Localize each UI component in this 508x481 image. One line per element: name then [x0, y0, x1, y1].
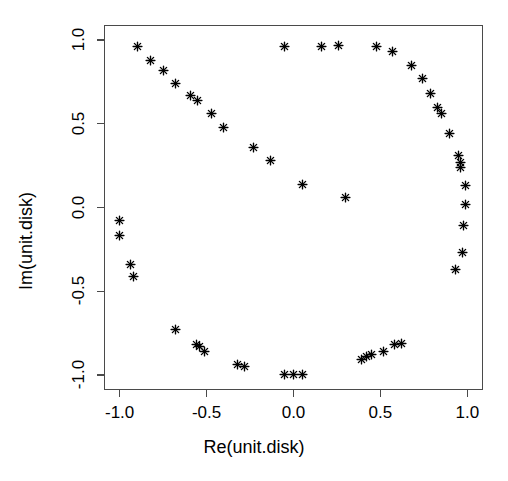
x-axis-tick [467, 390, 468, 397]
y-axis-tick-label: -0.5 [70, 256, 87, 326]
x-axis-tick-label: 0.0 [259, 404, 329, 421]
x-axis-tick [380, 390, 381, 397]
y-axis-tick [97, 291, 104, 292]
scatter-plot-figure: -1.0-0.50.00.51.0-1.0-0.50.00.51.0 Re(un… [0, 0, 508, 481]
y-axis-tick [97, 207, 104, 208]
x-axis-title: Re(unit.disk) [0, 437, 508, 458]
y-axis-tick-label: 0.5 [70, 88, 87, 158]
x-axis-tick-label: 1.0 [432, 404, 502, 421]
x-axis-tick-label: -1.0 [85, 404, 155, 421]
x-axis-tick [206, 390, 207, 397]
x-axis-tick-label: -0.5 [172, 404, 242, 421]
y-axis-tick [97, 374, 104, 375]
y-axis-tick-label: 1.0 [70, 5, 87, 75]
x-axis-tick [119, 390, 120, 397]
y-axis-tick [97, 123, 104, 124]
y-axis-tick-label: 0.0 [70, 172, 87, 242]
y-axis-tick [97, 39, 104, 40]
x-axis-tick-label: 0.5 [345, 404, 415, 421]
x-axis-tick [293, 390, 294, 397]
y-axis-title-container: Im(unit.disk) [14, 0, 38, 481]
y-axis-title: Im(unit.disk) [16, 191, 37, 289]
y-axis-tick-label: -1.0 [70, 339, 87, 409]
plot-area-box [104, 25, 483, 390]
